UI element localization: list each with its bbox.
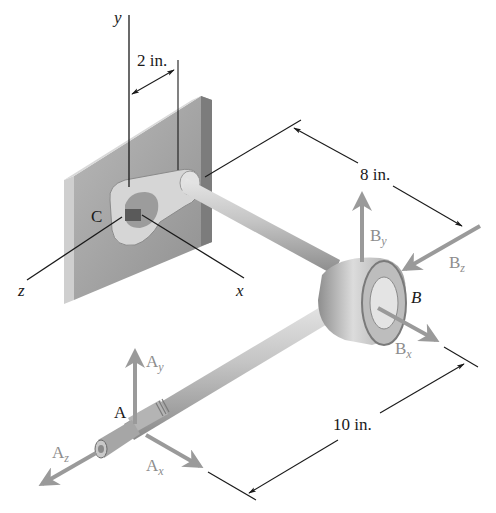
force-by-label: By: [370, 226, 387, 248]
y-axis-label: y: [112, 8, 122, 27]
statics-diagram: y z x C 2 in. 8 in. 10 in. By Bz B Bx Ay…: [0, 0, 496, 513]
force-ay-label: Ay: [146, 352, 164, 374]
force-bz-arrow: [405, 226, 480, 269]
force-az-label: Az: [52, 443, 69, 465]
force-bz-label: Bz: [449, 253, 465, 275]
point-b-label: B: [411, 288, 422, 307]
force-ax-label: Ax: [146, 456, 164, 478]
hub-b: [318, 258, 406, 345]
point-c-label: C: [91, 207, 102, 226]
force-bx-label: Bx: [395, 339, 412, 361]
dimension-2in-label: 2 in.: [137, 51, 167, 70]
force-az-arrow: [42, 453, 96, 484]
point-a-label: A: [114, 403, 127, 422]
dimension-8in-label: 8 in.: [360, 165, 390, 184]
z-axis-label: z: [17, 281, 25, 300]
dimension-10in-label: 10 in.: [333, 415, 372, 434]
x-axis-label: x: [235, 281, 244, 300]
rod-ab: [95, 300, 344, 458]
